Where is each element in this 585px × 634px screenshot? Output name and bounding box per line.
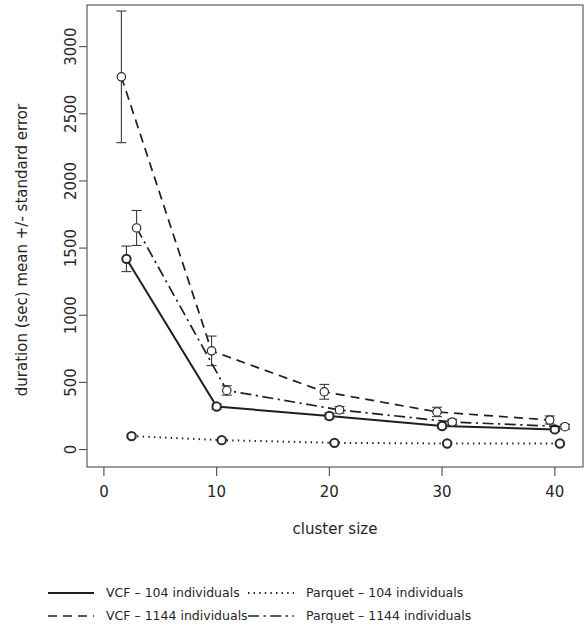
y-tick-label: 1500: [63, 229, 81, 267]
x-tick-label: 10: [207, 483, 226, 501]
series-line: [126, 259, 554, 430]
x-axis-title: cluster size: [293, 520, 378, 538]
data-point-marker: [132, 224, 140, 232]
data-point-marker: [438, 422, 446, 430]
series-3: [132, 210, 570, 430]
y-tick-label: 0: [63, 445, 81, 455]
plot-frame: [87, 5, 583, 467]
data-point-marker: [218, 436, 226, 444]
y-tick-label: 1000: [63, 296, 81, 334]
y-tick-label: 500: [63, 368, 81, 397]
data-point-marker: [443, 439, 451, 447]
data-point-marker: [335, 406, 343, 414]
y-axis-title: duration (sec) mean +/- standard error: [13, 103, 31, 396]
series-1: [127, 432, 565, 448]
series-line: [132, 436, 560, 443]
data-series-layer: [116, 11, 570, 448]
legend-label: Parquet – 1144 individuals: [306, 608, 471, 623]
data-point-marker: [330, 439, 338, 447]
chart-svg: 050010001500200025003000 010203040 clust…: [0, 0, 585, 634]
legend-label: VCF – 104 individuals: [106, 585, 240, 600]
y-tick-label: 2500: [63, 95, 81, 133]
x-tick-label: 40: [545, 483, 564, 501]
x-tick-label: 20: [320, 483, 339, 501]
x-tick-label: 30: [433, 483, 452, 501]
data-point-marker: [122, 255, 130, 263]
chart-legend: VCF – 104 individualsParquet – 104 indiv…: [48, 585, 471, 623]
data-point-marker: [320, 388, 328, 396]
y-tick-label: 3000: [63, 28, 81, 66]
legend-label: Parquet – 104 individuals: [306, 585, 463, 600]
x-axis-ticks: 010203040: [99, 467, 564, 501]
data-point-marker: [223, 386, 231, 394]
y-axis-ticks: 050010001500200025003000: [63, 28, 88, 455]
x-tick-label: 0: [99, 483, 109, 501]
legend-label: VCF – 1144 individuals: [106, 608, 248, 623]
data-point-marker: [433, 408, 441, 416]
series-line: [121, 77, 549, 420]
data-point-marker: [556, 439, 564, 447]
chart-figure: 050010001500200025003000 010203040 clust…: [0, 0, 585, 634]
data-point-marker: [448, 418, 456, 426]
series-2: [116, 11, 554, 424]
data-point-marker: [127, 432, 135, 440]
y-tick-label: 2000: [63, 162, 81, 200]
data-point-marker: [546, 416, 554, 424]
data-point-marker: [117, 73, 125, 81]
data-point-marker: [325, 412, 333, 420]
data-point-marker: [207, 347, 215, 355]
data-point-marker: [561, 423, 569, 431]
data-point-marker: [212, 402, 220, 410]
